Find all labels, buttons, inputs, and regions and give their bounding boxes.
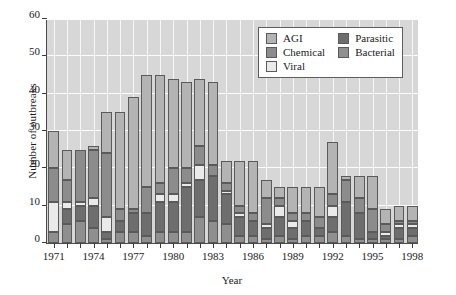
- bar-segment-agi: [141, 75, 152, 187]
- y-axis-tick-label: 20: [29, 157, 40, 169]
- x-axis-tick: [80, 243, 81, 248]
- bar-segment-viral: [168, 194, 179, 201]
- bar[interactable]: [75, 19, 86, 243]
- x-axis-tick-label: 1986: [242, 250, 264, 262]
- bar-segment-chemical: [367, 209, 378, 231]
- y-axis-tick-label: 40: [29, 83, 40, 95]
- x-axis-tick: [253, 243, 254, 248]
- bar-segment-viral: [48, 202, 59, 232]
- bar-segment-agi: [380, 209, 391, 224]
- bar[interactable]: [221, 19, 232, 243]
- bar[interactable]: [181, 19, 192, 243]
- x-axis-tick: [160, 243, 161, 248]
- bar[interactable]: [141, 19, 152, 243]
- bar-segment-agi: [314, 187, 325, 217]
- bar-segment-chemical: [181, 168, 192, 183]
- bar-segment-agi: [367, 176, 378, 210]
- bar[interactable]: [168, 19, 179, 243]
- bar-segment-agi: [234, 161, 245, 206]
- bar-segment-agi: [181, 82, 192, 168]
- bar-segment-chemical: [287, 213, 298, 220]
- bar[interactable]: [62, 19, 73, 243]
- legend-item-bacterial[interactable]: Bacterial: [338, 47, 395, 58]
- x-axis-tick-label: 1980: [162, 250, 184, 262]
- bar-segment-agi: [407, 206, 418, 221]
- x-axis-tick: [240, 243, 241, 248]
- bar-segment-parasitic: [194, 180, 205, 217]
- bar-segment-parasitic: [181, 187, 192, 232]
- bar-segment-viral: [394, 224, 405, 228]
- x-axis-tick: [173, 243, 174, 248]
- bar-segment-chemical: [141, 187, 152, 213]
- bar-segment-agi: [287, 187, 298, 213]
- bar-segment-agi: [48, 131, 59, 168]
- bar-segment-chemical: [341, 180, 352, 202]
- bar-segment-agi: [208, 82, 219, 164]
- bar-segment-chemical: [261, 198, 272, 224]
- bar[interactable]: [128, 19, 139, 243]
- bar-segment-chemical: [88, 150, 99, 199]
- x-axis-tick: [319, 243, 320, 248]
- bar-segment-parasitic: [221, 194, 232, 224]
- x-axis-tick-label: 1983: [202, 250, 224, 262]
- y-axis-tick: [42, 55, 47, 56]
- bar-segment-chemical: [115, 209, 126, 220]
- x-axis-tick: [213, 243, 214, 248]
- legend-swatch-icon: [266, 33, 277, 44]
- x-axis-tick: [373, 243, 374, 248]
- bar[interactable]: [115, 19, 126, 243]
- bar-segment-parasitic: [327, 217, 338, 232]
- bar-segment-agi: [62, 150, 73, 180]
- bar-segment-viral: [380, 232, 391, 236]
- bar-segment-agi: [221, 161, 232, 183]
- bar[interactable]: [194, 19, 205, 243]
- legend-swatch-icon: [338, 47, 349, 58]
- bar-segment-viral: [75, 202, 86, 206]
- bar-segment-parasitic: [314, 228, 325, 235]
- bar[interactable]: [208, 19, 219, 243]
- bar-segment-bacterial: [155, 232, 166, 243]
- legend-swatch-icon: [266, 61, 277, 72]
- bar-segment-bacterial: [380, 239, 391, 243]
- bar-segment-agi: [115, 112, 126, 209]
- bar-segment-bacterial: [314, 236, 325, 243]
- bar-segment-bacterial: [128, 232, 139, 243]
- bar-segment-parasitic: [141, 213, 152, 235]
- bar-segment-bacterial: [301, 236, 312, 243]
- bar-segment-parasitic: [168, 202, 179, 232]
- x-axis-tick: [94, 243, 95, 248]
- bar-segment-chemical: [75, 150, 86, 202]
- y-axis-tick: [42, 167, 47, 168]
- bar-segment-agi: [341, 176, 352, 180]
- bar[interactable]: [234, 19, 245, 243]
- bar-segment-bacterial: [62, 224, 73, 243]
- bar[interactable]: [88, 19, 99, 243]
- legend-item-chemical[interactable]: Chemical: [266, 47, 325, 58]
- bar-segment-viral: [234, 213, 245, 217]
- bar-segment-chemical: [354, 198, 365, 213]
- x-axis-tick-label: 1971: [43, 250, 65, 262]
- bar-segment-parasitic: [248, 221, 259, 236]
- bar[interactable]: [407, 19, 418, 243]
- bar-segment-bacterial: [194, 217, 205, 243]
- legend-label: AGI: [283, 33, 303, 44]
- bar-segment-agi: [301, 187, 312, 213]
- legend-item-parasitic[interactable]: Parasitic: [338, 33, 395, 44]
- legend-item-agi[interactable]: AGI: [266, 33, 325, 44]
- bar[interactable]: [248, 19, 259, 243]
- legend-item-viral[interactable]: Viral: [266, 61, 325, 72]
- legend-label: Bacterial: [355, 47, 395, 58]
- x-axis-tick: [293, 243, 294, 248]
- x-axis-tick: [359, 243, 360, 248]
- x-axis-tick: [187, 243, 188, 248]
- bar-segment-agi: [274, 187, 285, 198]
- bar[interactable]: [155, 19, 166, 243]
- bar-segment-parasitic: [301, 221, 312, 236]
- bar-segment-chemical: [234, 206, 245, 213]
- x-axis-tick: [67, 243, 68, 248]
- bar[interactable]: [101, 19, 112, 243]
- bar[interactable]: [48, 19, 59, 243]
- y-axis-tick: [42, 130, 47, 131]
- y-axis-tick: [42, 205, 47, 206]
- bar-segment-chemical: [48, 168, 59, 202]
